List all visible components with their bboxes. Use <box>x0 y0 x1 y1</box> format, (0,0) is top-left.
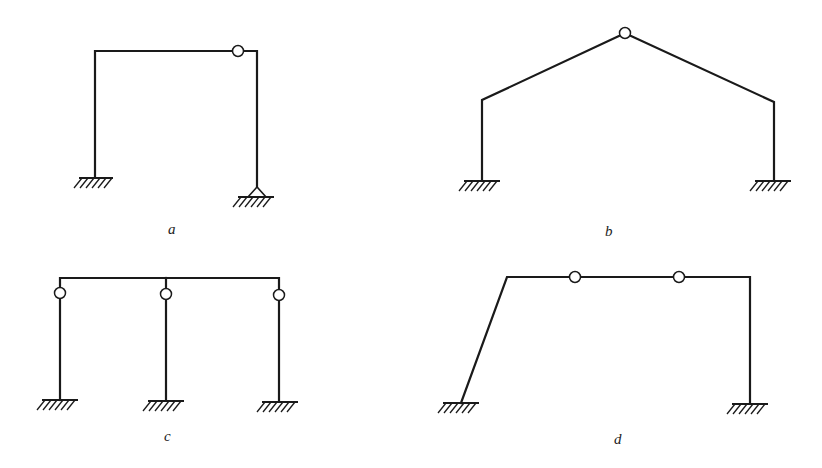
panel-b: b <box>459 28 791 240</box>
structural-frames-figure: a b <box>0 0 822 468</box>
frame-d-inclined-leg-and-beam <box>461 277 569 403</box>
fixed-support-icon <box>143 401 184 411</box>
frame-c-top-beam <box>60 278 279 288</box>
panel-c: c <box>37 278 298 444</box>
panel-label-c: c <box>164 428 171 444</box>
hinge-icon <box>233 46 244 57</box>
hinge-icon <box>620 28 631 39</box>
panel-label-a: a <box>168 221 176 237</box>
hinge-icon <box>274 290 285 301</box>
frame-d-right-beam-and-column <box>685 277 750 404</box>
frame-a-right-column <box>244 51 257 187</box>
fixed-support-icon <box>727 404 768 414</box>
pin-support-icon <box>233 187 274 207</box>
panel-d: d <box>438 272 768 448</box>
fixed-support-icon <box>257 402 298 412</box>
fixed-support-icon <box>459 181 500 191</box>
fixed-support-icon <box>438 403 479 413</box>
hinge-icon <box>674 272 685 283</box>
panel-label-b: b <box>605 223 613 239</box>
fixed-support-icon <box>750 181 791 191</box>
fixed-support-icon <box>37 400 78 410</box>
frame-b-right-rafter-and-column <box>631 36 774 181</box>
fixed-support-icon <box>74 178 113 188</box>
frame-b-left-column-and-rafter <box>482 36 619 181</box>
frame-a-left-column-and-beam <box>95 51 232 178</box>
panel-a: a <box>74 46 274 238</box>
hinge-icon <box>55 288 66 299</box>
hinge-icon <box>570 272 581 283</box>
panel-label-d: d <box>614 431 622 447</box>
hinge-icon <box>161 289 172 300</box>
